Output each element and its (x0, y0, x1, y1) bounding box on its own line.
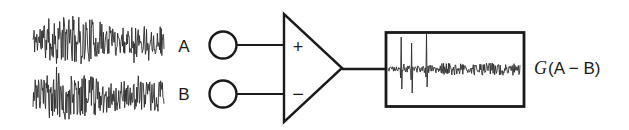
input-b-label: B (178, 86, 189, 103)
input-a-waveform (33, 16, 164, 64)
opamp-plus-sign: + (293, 38, 304, 56)
difference-expression: (A − B) (548, 59, 600, 78)
output-waveform (388, 34, 520, 93)
opamp-minus-sign: − (292, 84, 304, 104)
gain-symbol: G (534, 58, 547, 78)
input-a-label: A (178, 38, 189, 55)
electrode-a-circle-icon (210, 32, 237, 59)
input-b-waveform (33, 67, 164, 119)
opamp-triangle-icon (284, 14, 342, 122)
electrode-b-circle-icon (210, 81, 237, 108)
differential-amplifier-figure: A B + − G(A − B) (0, 0, 629, 130)
output-expression-label: G(A − B) (534, 59, 600, 77)
